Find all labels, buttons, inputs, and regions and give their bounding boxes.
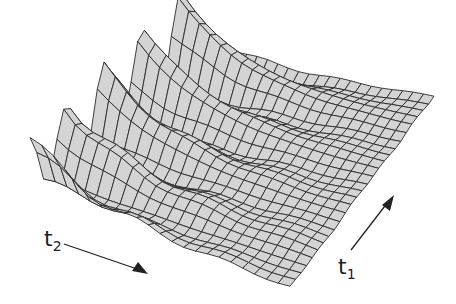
t1-axis-arrow — [0, 0, 456, 304]
t1-label-base: t — [338, 254, 347, 279]
t2-label-sub: 2 — [53, 238, 62, 254]
surface-chart: t2 t1 — [0, 0, 456, 304]
t1-label-sub: 1 — [347, 266, 356, 282]
t2-axis-label: t2 — [44, 228, 62, 253]
t2-label-base: t — [44, 226, 53, 251]
t1-axis-label: t1 — [338, 256, 356, 281]
